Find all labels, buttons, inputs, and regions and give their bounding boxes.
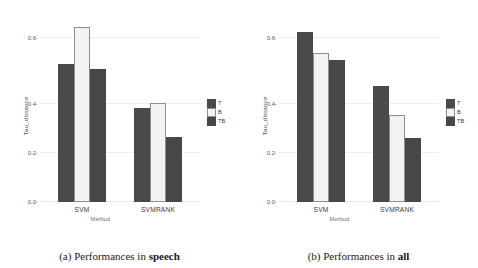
legend-row-b-t: T [446, 99, 464, 108]
legend-row-a-t: T [207, 99, 225, 108]
legend-label-a-b: B [218, 108, 222, 117]
caption-b-emphasis: all [398, 250, 410, 262]
gridline-a-3 [40, 37, 200, 38]
bar-a-svm-t [58, 64, 74, 202]
caption-a-prefix: (a) [59, 250, 71, 262]
legend-swatch-b-icon [446, 108, 455, 117]
y-tick-b-3: 0.6- [267, 35, 277, 41]
figure-panel-b: Tau_distance 0.0- 0.2- 0.4- 0.6- [239, 0, 478, 268]
legend-row-b-tb: TB [446, 117, 464, 126]
y-tick-a-1: 0.2- [28, 150, 38, 156]
x-tick-a-1: SVMRANK [141, 206, 175, 213]
caption-b-text: Performances in [323, 250, 395, 262]
bars-canvas-b [279, 18, 439, 202]
bar-b-svm-b [313, 53, 329, 202]
legend-b: T B TB [446, 99, 464, 126]
figure-row: Tau_distance 0.0- 0.2- 0.4- 0.6- [0, 0, 478, 268]
y-tick-a-0: 0.0- [28, 199, 38, 205]
y-tick-b-1: 0.2- [267, 150, 277, 156]
legend-swatch-b-icon [207, 108, 216, 117]
bar-b-svmrank-tb [405, 138, 421, 202]
legend-row-a-b: B [207, 108, 225, 117]
bar-b-svm-tb [329, 60, 345, 202]
legend-label-a-t: T [218, 99, 221, 108]
bar-a-svm-tb [90, 69, 106, 202]
bar-a-svmrank-b [150, 103, 166, 202]
legend-swatch-t-icon [207, 99, 216, 108]
figure-panel-a: Tau_distance 0.0- 0.2- 0.4- 0.6- [0, 0, 239, 268]
bar-b-svm-t [297, 32, 313, 202]
caption-a-emphasis: speech [149, 250, 180, 262]
bars-canvas-a [40, 18, 200, 202]
y-tick-group-b: 0.0- 0.2- 0.4- 0.6- [255, 0, 277, 232]
legend-swatch-t-icon [446, 99, 455, 108]
legend-label-b-t: T [457, 99, 460, 108]
y-tick-group-a: 0.0- 0.2- 0.4- 0.6- [16, 0, 38, 232]
y-tick-b-0: 0.0- [267, 199, 277, 205]
bar-b-svmrank-b [389, 115, 405, 202]
x-tick-b-1: SVMRANK [380, 206, 414, 213]
x-tick-a-0: SVM [75, 206, 90, 213]
legend-row-b-b: B [446, 108, 464, 117]
legend-label-a-tb: TB [218, 117, 225, 126]
y-tick-b-2: 0.4- [267, 101, 277, 107]
plot-area-a: Tau_distance 0.0- 0.2- 0.4- 0.6- [0, 0, 239, 232]
bar-b-svmrank-t [373, 86, 389, 202]
y-tick-a-2: 0.4- [28, 101, 38, 107]
bar-a-svmrank-t [134, 108, 150, 202]
y-tick-a-3: 0.6- [28, 35, 38, 41]
legend-swatch-tb-icon [207, 117, 216, 126]
x-axis-label-b: Method [201, 216, 478, 222]
legend-label-b-b: B [457, 108, 461, 117]
caption-b: (b) Performances in all [239, 250, 478, 262]
legend-label-b-tb: TB [457, 117, 464, 126]
bar-a-svm-b [74, 27, 90, 202]
x-tick-b-0: SVM [314, 206, 329, 213]
legend-row-a-tb: TB [207, 117, 225, 126]
legend-a: T B TB [207, 99, 225, 126]
caption-a-text: Performances in [74, 250, 146, 262]
plot-area-b: Tau_distance 0.0- 0.2- 0.4- 0.6- [239, 0, 478, 232]
legend-swatch-tb-icon [446, 117, 455, 126]
caption-b-prefix: (b) [308, 250, 321, 262]
bar-a-svmrank-tb [166, 137, 182, 202]
caption-a: (a) Performances in speech [0, 250, 239, 262]
